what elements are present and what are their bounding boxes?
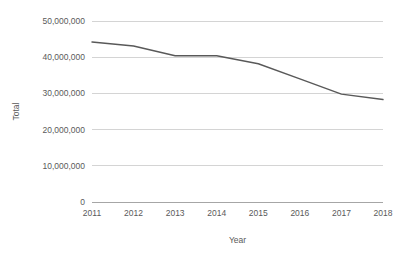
y-axis-tick-labels: 010,000,00020,000,00030,000,00040,000,00… [42, 16, 85, 207]
x-axis-tick-label: 2012 [124, 208, 143, 218]
x-axis-tick-label: 2018 [374, 208, 393, 218]
x-axis-tick-label: 2013 [166, 208, 185, 218]
y-axis-tick-label: 10,000,000 [42, 161, 85, 171]
x-axis-tick-label: 2015 [249, 208, 268, 218]
x-axis-tick-label: 2011 [83, 208, 102, 218]
y-gridlines [92, 21, 383, 202]
x-axis-title: Year [229, 235, 246, 245]
y-axis-tick-label: 50,000,000 [42, 16, 85, 26]
line-chart: 010,000,00020,000,00030,000,00040,000,00… [0, 0, 417, 259]
x-axis-tick-label: 2017 [332, 208, 351, 218]
x-axis-tick-label: 2014 [207, 208, 226, 218]
y-axis-tick-label: 40,000,000 [42, 52, 85, 62]
y-axis-title: Total [11, 102, 21, 120]
y-axis-tick-label: 30,000,000 [42, 88, 85, 98]
chart-canvas: 010,000,00020,000,00030,000,00040,000,00… [0, 0, 417, 259]
x-axis-tick-label: 2016 [290, 208, 309, 218]
x-axis-tick-labels: 20112012201320142015201620172018 [83, 208, 393, 218]
y-axis-tick-label: 0 [80, 197, 85, 207]
data-series-line [92, 42, 383, 100]
y-axis-tick-label: 20,000,000 [42, 125, 85, 135]
